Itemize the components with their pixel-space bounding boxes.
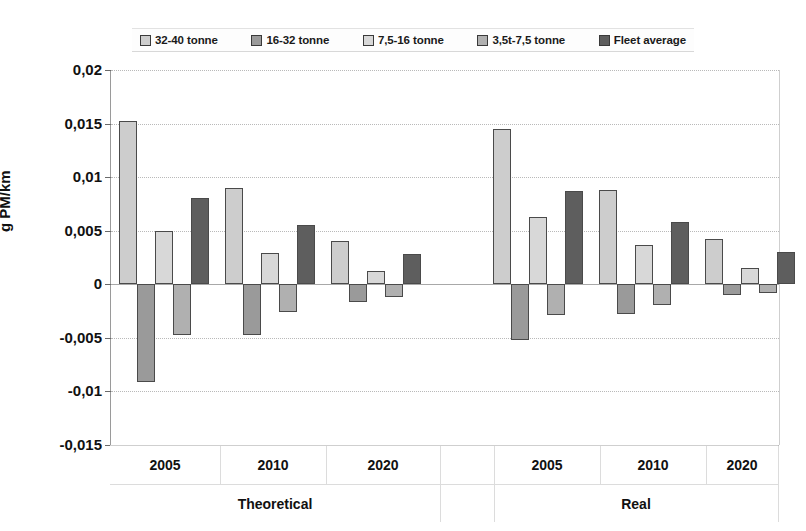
legend-item-label: 3,5t-7,5 tonne [492,34,565,46]
x-axis-group-band: Real [494,484,779,522]
bar [331,241,349,284]
bar-chart: 32-40 tonne16-32 tonne7,5-16 tonne3,5t-7… [0,0,806,531]
bar [671,222,689,284]
bar [297,225,315,284]
legend-item-label: 32-40 tonne [155,34,218,46]
x-axis-category-band: 2020 [326,446,441,484]
bar [225,188,243,284]
x-axis-category-band: 2005 [494,446,601,484]
legend-item[interactable]: 3,5t-7,5 tonne [477,34,565,46]
bar [367,271,385,284]
legend-item[interactable]: 7,5-16 tonne [363,34,444,46]
bar [617,284,635,314]
bar [137,284,155,382]
bars-layer [111,70,779,445]
y-axis-title: g PM/km [0,170,13,232]
bar [385,284,403,297]
x-axis-category-label: 2020 [726,457,757,473]
x-axis-group-band: Theoretical [110,484,441,522]
chart-legend: 32-40 tonne16-32 tonne7,5-16 tonne3,5t-7… [132,28,694,52]
bar [119,121,137,284]
x-axis-group-label: Real [621,496,651,512]
legend-item-label: 16-32 tonne [266,34,329,46]
x-axis-category-label: 2010 [257,457,288,473]
bar [493,129,511,284]
x-axis-group-spacer [440,484,495,522]
legend-swatch-icon [251,35,262,46]
bar [759,284,777,293]
x-axis-category-label: 2020 [367,457,398,473]
legend-swatch-icon [140,35,151,46]
x-axis-spacer [440,446,495,484]
x-axis-category-band: 2005 [110,446,221,484]
legend-swatch-icon [599,35,610,46]
legend-swatch-icon [363,35,374,46]
x-axis-category-band: 2020 [706,446,779,484]
x-axis-category-label: 2005 [531,457,562,473]
x-axis-category-label: 2010 [637,457,668,473]
bar [653,284,671,304]
legend-item[interactable]: 32-40 tonne [140,34,218,46]
legend-swatch-icon [477,35,488,46]
bar [155,231,173,285]
bar [529,217,547,285]
x-axis-category-band: 2010 [600,446,707,484]
legend-item-label: Fleet average [614,34,686,46]
bar [777,252,795,284]
bar [741,268,759,284]
bar [635,245,653,285]
legend-item[interactable]: Fleet average [599,34,686,46]
bar [279,284,297,312]
bar [705,239,723,284]
bar [723,284,741,295]
bar [511,284,529,340]
bar [599,190,617,284]
bar [261,253,279,284]
x-axis-category-band: 2010 [220,446,327,484]
bar [173,284,191,334]
bar [547,284,565,315]
bar [243,284,261,334]
legend-item-label: 7,5-16 tonne [378,34,444,46]
legend-item[interactable]: 16-32 tonne [251,34,329,46]
x-axis-category-label: 2005 [149,457,180,473]
x-axis: 200520102020200520102020TheoreticalReal [110,445,778,520]
plot-area [110,70,780,445]
bar [349,284,367,302]
x-axis-group-label: Theoretical [238,496,313,512]
bar [565,191,583,284]
bar [403,254,421,284]
y-axis-title-container: g PM/km [0,0,40,531]
bar [191,198,209,285]
